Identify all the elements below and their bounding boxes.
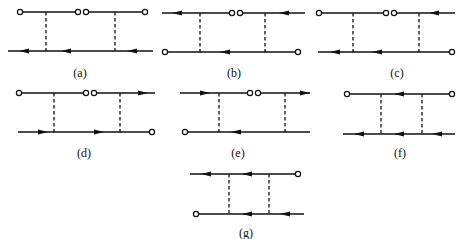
endpoint-circle-icon xyxy=(344,91,349,96)
arrow-left-icon xyxy=(201,171,211,176)
arrow-left-icon xyxy=(127,48,137,53)
arrow-left-icon xyxy=(354,131,364,136)
panel-label-a: (a) xyxy=(65,66,95,81)
panel-label-b: (b) xyxy=(219,66,249,81)
arrow-right-icon xyxy=(94,129,104,134)
endpoint-circle-icon xyxy=(295,49,300,54)
arrow-right-icon xyxy=(200,90,210,95)
arrow-left-icon xyxy=(172,10,182,15)
endpoint-circle-icon xyxy=(16,90,21,95)
arrow-left-icon xyxy=(432,131,442,136)
endpoint-circle-icon xyxy=(83,9,88,14)
endpoint-circle-icon xyxy=(295,171,300,176)
arrow-left-icon xyxy=(280,211,290,216)
endpoint-circle-icon xyxy=(142,9,147,14)
arrow-right-icon xyxy=(300,90,310,95)
feynman-ladder-diagrams xyxy=(0,0,463,239)
endpoint-circle-icon xyxy=(149,129,154,134)
arrow-left-icon xyxy=(242,171,252,176)
endpoint-circle-icon xyxy=(229,10,234,15)
endpoint-circle-icon xyxy=(182,129,187,134)
endpoint-circle-icon xyxy=(247,90,252,95)
arrow-left-icon xyxy=(429,10,439,15)
endpoint-circle-icon xyxy=(391,10,396,15)
endpoint-circle-icon xyxy=(449,91,454,96)
arrow-right-icon xyxy=(138,90,148,95)
arrow-right-icon xyxy=(38,129,48,134)
endpoint-circle-icon xyxy=(255,90,260,95)
endpoint-circle-icon xyxy=(162,49,167,54)
arrow-left-icon xyxy=(19,48,29,53)
endpoint-circle-icon xyxy=(316,10,321,15)
panel-label-e: (e) xyxy=(223,146,253,161)
endpoint-circle-icon xyxy=(383,10,388,15)
arrow-left-icon xyxy=(61,48,71,53)
arrow-left-icon xyxy=(231,129,241,134)
panel-label-g: (g) xyxy=(231,226,261,239)
arrow-left-icon xyxy=(220,49,230,54)
endpoint-circle-icon xyxy=(91,90,96,95)
panel-label-f: (f) xyxy=(385,146,415,161)
arrow-left-icon xyxy=(372,49,382,54)
endpoint-circle-icon xyxy=(237,10,242,15)
arrow-left-icon xyxy=(330,49,340,54)
arrow-left-icon xyxy=(394,131,404,136)
endpoint-circle-icon xyxy=(193,211,198,216)
arrow-left-icon xyxy=(394,91,404,96)
arrow-left-icon xyxy=(242,211,252,216)
endpoint-circle-icon xyxy=(83,90,88,95)
endpoint-circle-icon xyxy=(75,9,80,14)
panel-label-d: (d) xyxy=(69,146,99,161)
endpoint-circle-icon xyxy=(17,9,22,14)
arrow-left-icon xyxy=(279,10,289,15)
endpoint-circle-icon xyxy=(449,49,454,54)
panel-label-c: (c) xyxy=(382,66,412,81)
